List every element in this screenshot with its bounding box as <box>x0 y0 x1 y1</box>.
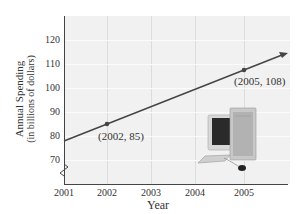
point-2005 <box>242 68 247 73</box>
computer-illustration-icon <box>198 108 256 171</box>
chart-overlay <box>0 0 302 214</box>
point-2002 <box>105 122 110 127</box>
axis-break-icon <box>60 164 68 176</box>
point-label-2002: (2002, 85) <box>98 130 144 142</box>
point-label-2005: (2005, 108) <box>234 75 285 87</box>
